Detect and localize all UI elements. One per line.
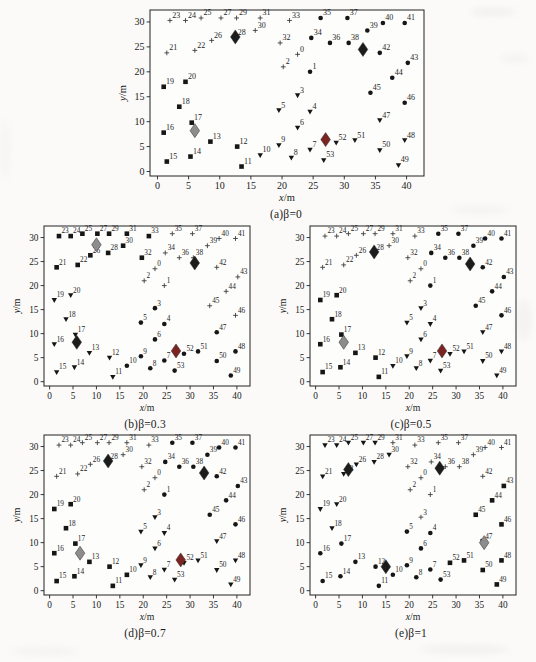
node-id-label: 18: [334, 519, 342, 528]
x-tick-label: 25: [428, 600, 438, 610]
node-id-label: 16: [166, 123, 174, 132]
node-id-label: 33: [417, 435, 425, 444]
node-id-label: 52: [452, 553, 460, 562]
node-id-label: 42: [219, 257, 227, 266]
subplot-c-canvas: 0510152025303540051015202530x/my/m022122…: [276, 221, 526, 419]
node-id-label: 24: [339, 226, 347, 235]
node-id-label: 43: [506, 476, 514, 485]
y-tick-label: 0: [140, 166, 145, 177]
x-tick-label: 10: [92, 600, 102, 610]
node-id-label: 19: [323, 290, 331, 299]
node-id-label: 32: [144, 457, 152, 466]
node-id-label: 48: [504, 551, 512, 560]
node-id-label: 35: [441, 224, 449, 233]
x-tick-label: 5: [71, 600, 76, 610]
y-tick-label: 5: [34, 562, 39, 572]
node-id-label: 27: [366, 433, 374, 442]
x-tick-label: 35: [209, 600, 219, 610]
node-id-label: 4: [167, 523, 171, 532]
node-id-label: 4: [167, 314, 171, 323]
node-id-label: 37: [195, 433, 203, 442]
node-id-label: 37: [195, 224, 203, 233]
node-id-label: 8: [419, 568, 423, 577]
node-id-label: 13: [92, 552, 100, 561]
node-id-label: 44: [495, 491, 503, 500]
x-tick-label: 0: [313, 600, 318, 610]
node-id-label: 39: [370, 21, 378, 30]
y-tick-label: 10: [295, 538, 305, 548]
scan-artifact: [470, 8, 516, 16]
node-id-label: 39: [476, 445, 484, 454]
node-id-label: 17: [78, 534, 86, 543]
node-id-label: 40: [488, 438, 496, 447]
node-id-label: 1: [433, 485, 437, 494]
node-id-label: 34: [314, 28, 322, 37]
node-id-label: 3: [300, 86, 304, 95]
x-tick-label: 30: [185, 391, 195, 401]
subplot-e-caption: (e)β=1: [395, 628, 427, 640]
x-tick-label: 35: [370, 180, 380, 191]
node-id-label: 39: [210, 236, 218, 245]
node-id-label: 8: [419, 358, 423, 367]
node-id-label: 43: [410, 53, 418, 62]
node-id-label: 14: [77, 357, 85, 366]
node-id-label: 18: [68, 519, 76, 528]
node-id-label: 52: [452, 344, 460, 353]
node-id-label: 47: [219, 532, 227, 541]
node-id-label: 42: [382, 43, 390, 52]
node-id-label: 15: [59, 362, 67, 371]
node-id-label: 17: [194, 113, 202, 122]
node-id-label: 49: [233, 575, 241, 584]
node-id-label: 53: [443, 361, 451, 370]
node-id-label: 15: [169, 152, 177, 161]
subplot-d: 0510152025303540051015202530x/my/m022122…: [10, 430, 260, 640]
node-id-label: 23: [172, 11, 180, 20]
subplot-e-canvas: 0510152025303540051015202530x/my/m012331…: [276, 430, 526, 628]
node-id-label: 11: [381, 367, 388, 376]
x-tick-label: 15: [246, 180, 256, 191]
y-tick-label: 10: [29, 538, 39, 548]
node-id-label: 52: [186, 344, 194, 353]
node-id-label: 41: [504, 228, 512, 237]
node-id-label: 48: [238, 551, 246, 560]
node-id-label: 0: [157, 468, 161, 477]
node-id-label: 53: [177, 361, 185, 370]
node-id-label: 46: [238, 515, 246, 524]
node-id-label: 23: [61, 435, 69, 444]
scan-artifact: [10, 648, 80, 655]
node-id-label: 34: [168, 243, 176, 252]
x-tick-label: 40: [402, 180, 412, 191]
node-id-label: 5: [409, 522, 413, 531]
node-id-label: 4: [433, 523, 437, 532]
x-tick-label: 5: [71, 391, 76, 401]
figure-row-2: 0510152025303540051015202530x/my/m212223…: [10, 221, 526, 431]
node-id-label: 7: [433, 350, 437, 359]
node-id-label: 18: [182, 97, 190, 106]
node-id-label: 5: [281, 101, 285, 110]
node-id-label: 11: [244, 157, 252, 166]
node-id-label: 39: [210, 445, 218, 454]
node-id-label: 36: [448, 457, 456, 466]
node-id-label: 46: [504, 515, 512, 524]
subplot-b: 0510152025303540051015202530x/my/m212223…: [10, 221, 260, 431]
y-tick-label: 0: [300, 586, 305, 596]
node-id-label: 47: [485, 322, 493, 331]
node-id-label: 31: [263, 8, 271, 17]
node-id-label: 10: [395, 565, 403, 574]
node-id-label: 20: [73, 495, 81, 504]
node-id-label: 48: [238, 341, 246, 350]
scan-artifact: [500, 55, 530, 62]
node-id-label: 46: [238, 305, 246, 314]
x-tick-label: 40: [498, 391, 508, 401]
node-id-label: 29: [377, 433, 385, 442]
node-id-label: 22: [197, 41, 205, 50]
node-id-label: 19: [166, 77, 174, 86]
node-id-label: 50: [485, 351, 493, 360]
x-tick-label: 35: [209, 391, 219, 401]
y-tick-label: 10: [29, 328, 39, 338]
node-id-label: 36: [182, 457, 190, 466]
node-id-label: 20: [339, 285, 347, 294]
x-tick-label: 25: [162, 391, 172, 401]
node-id-label: 7: [167, 350, 171, 359]
node-id-label: 16: [323, 544, 331, 553]
